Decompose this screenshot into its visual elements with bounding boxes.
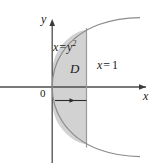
xone-rhs: 1 — [111, 58, 119, 72]
math-figure: x=y2 x=1 D 0 x y — [0, 0, 166, 163]
label-region-d: D — [70, 62, 79, 75]
label-axis-y: y — [41, 13, 46, 25]
figure-canvas — [0, 0, 166, 163]
parabola-exponent: 2 — [72, 39, 76, 48]
label-axis-x: x — [143, 90, 148, 102]
label-vertical-line-equation: x=1 — [97, 59, 119, 71]
xone-operator: = — [102, 58, 111, 72]
y-axis-arrowhead — [49, 19, 55, 26]
label-origin: 0 — [40, 88, 46, 99]
label-parabola-equation: x=y2 — [53, 41, 76, 53]
parabola-operator: = — [58, 40, 67, 54]
